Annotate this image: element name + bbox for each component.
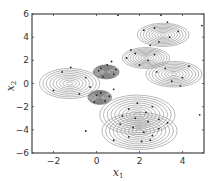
data-point bbox=[85, 77, 87, 79]
data-point bbox=[134, 117, 136, 119]
data-point bbox=[154, 27, 156, 29]
data-point bbox=[61, 71, 63, 73]
data-point bbox=[152, 135, 154, 137]
y-tick-label: −6 bbox=[16, 148, 30, 158]
data-point bbox=[149, 139, 151, 141]
contour-ellipse bbox=[160, 34, 166, 37]
contour-ellipse bbox=[158, 67, 189, 81]
contour-ellipse bbox=[43, 70, 97, 97]
data-point bbox=[98, 70, 100, 72]
data-point bbox=[164, 68, 166, 70]
x-tick-label: 0 bbox=[94, 156, 100, 166]
contour-ellipse bbox=[149, 28, 178, 41]
data-point bbox=[89, 86, 91, 88]
x-tick-label: 2 bbox=[137, 156, 143, 166]
data-point bbox=[121, 115, 123, 117]
data-point bbox=[167, 122, 169, 124]
x-axis-label: x1 bbox=[113, 166, 124, 180]
data-point bbox=[167, 21, 169, 23]
data-point bbox=[93, 101, 95, 103]
data-point bbox=[109, 95, 111, 97]
data-point bbox=[141, 141, 143, 143]
contour-ellipses bbox=[40, 23, 202, 149]
data-point bbox=[188, 65, 190, 67]
contour-ellipse bbox=[146, 61, 202, 86]
contour-ellipse bbox=[105, 71, 107, 72]
contour-ellipse bbox=[140, 25, 186, 46]
contour-ellipse bbox=[149, 63, 199, 86]
contour-ellipse bbox=[143, 57, 148, 59]
y-axis-label: x2 bbox=[4, 81, 18, 92]
contour-ellipse bbox=[99, 97, 101, 98]
data-point bbox=[111, 61, 113, 63]
data-point bbox=[53, 90, 55, 92]
data-point bbox=[145, 112, 147, 114]
data-point bbox=[113, 139, 115, 141]
data-point bbox=[143, 29, 145, 31]
data-point bbox=[201, 25, 203, 27]
data-point bbox=[100, 68, 102, 70]
data-point bbox=[85, 130, 87, 132]
y-tick-label: −2 bbox=[16, 102, 29, 112]
data-point bbox=[128, 108, 130, 110]
x-tick-label: −2 bbox=[47, 156, 60, 166]
data-point bbox=[128, 136, 130, 138]
y-tick-label: 6 bbox=[23, 9, 29, 19]
data-point bbox=[132, 127, 134, 129]
data-point bbox=[169, 36, 171, 38]
contour-ellipse bbox=[63, 80, 76, 87]
data-point bbox=[143, 131, 145, 133]
y-tick-label: 4 bbox=[23, 32, 29, 42]
data-point bbox=[147, 121, 149, 123]
y-tick-label: 0 bbox=[23, 79, 29, 89]
data-point bbox=[152, 106, 154, 108]
data-point bbox=[96, 94, 98, 96]
data-point bbox=[70, 66, 72, 68]
data-point bbox=[136, 102, 138, 104]
contour-ellipse bbox=[66, 82, 73, 85]
data-point bbox=[147, 59, 149, 61]
contour-ellipse bbox=[168, 71, 180, 77]
data-point bbox=[106, 64, 108, 66]
y-tick-label: −4 bbox=[16, 125, 30, 135]
x-tick-label: 4 bbox=[180, 156, 186, 166]
data-point bbox=[156, 71, 158, 73]
data-point bbox=[113, 88, 115, 90]
contour-ellipse bbox=[141, 56, 152, 61]
data-point bbox=[102, 76, 104, 78]
data-point bbox=[177, 30, 179, 32]
contour-ellipse bbox=[53, 75, 86, 92]
contour-ellipse bbox=[171, 73, 177, 76]
gmm-contour-chart: −2024 −6−4−20246 x1 x2 bbox=[0, 0, 214, 181]
data-point bbox=[78, 93, 80, 95]
data-point bbox=[126, 57, 128, 59]
data-point bbox=[134, 52, 136, 54]
data-point bbox=[130, 49, 132, 51]
data-point bbox=[182, 77, 184, 79]
data-point bbox=[149, 44, 151, 46]
data-point bbox=[158, 128, 160, 130]
data-point bbox=[199, 114, 201, 116]
data-point bbox=[158, 41, 160, 43]
data-point bbox=[115, 69, 117, 71]
data-point bbox=[104, 100, 106, 102]
y-tick-label: 2 bbox=[23, 55, 29, 65]
contour-ellipse bbox=[137, 23, 189, 46]
plot-frame bbox=[32, 14, 204, 153]
data-point bbox=[154, 54, 156, 56]
data-point bbox=[179, 85, 181, 87]
data-point bbox=[119, 123, 121, 125]
data-point bbox=[100, 92, 102, 94]
data-point bbox=[113, 73, 115, 75]
data-point bbox=[171, 80, 173, 82]
contour-ellipse bbox=[157, 32, 168, 37]
data-point bbox=[158, 119, 160, 121]
data-point bbox=[139, 64, 141, 66]
